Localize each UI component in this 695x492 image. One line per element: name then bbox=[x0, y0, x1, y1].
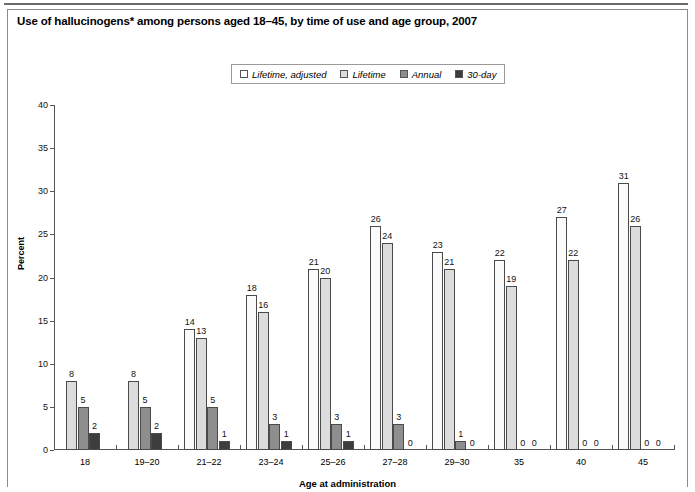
x-axis-tick-mark bbox=[426, 445, 427, 450]
bar bbox=[89, 433, 100, 450]
y-axis-tick-label: 40 bbox=[18, 100, 48, 110]
bar bbox=[258, 312, 269, 450]
x-axis-tick-mark bbox=[364, 445, 365, 450]
x-axis-tick-mark bbox=[116, 445, 117, 450]
bar bbox=[246, 295, 257, 450]
bar bbox=[320, 278, 331, 451]
bar-value-label: 3 bbox=[390, 412, 407, 422]
bar-value-label: 18 bbox=[243, 283, 260, 293]
bar-value-label: 0 bbox=[464, 438, 481, 448]
bar bbox=[370, 226, 381, 450]
x-axis-tick-label: 29–30 bbox=[426, 457, 488, 467]
x-axis-tick-mark bbox=[54, 445, 55, 450]
legend-item: Annual bbox=[400, 69, 442, 80]
bar bbox=[308, 269, 319, 450]
bar-value-label: 3 bbox=[328, 412, 345, 422]
legend-swatch-icon bbox=[455, 70, 463, 78]
bar-value-label: 5 bbox=[204, 395, 221, 405]
bar-value-label: 13 bbox=[193, 326, 210, 336]
legend-item: Lifetime, adjusted bbox=[240, 69, 326, 80]
y-axis-tick-label: 10 bbox=[18, 359, 48, 369]
x-axis-tick-mark bbox=[178, 445, 179, 450]
bar bbox=[494, 260, 505, 450]
x-axis-tick-mark bbox=[240, 445, 241, 450]
bar-group: 26243027–28 bbox=[364, 105, 426, 450]
page-top-rule bbox=[4, 3, 688, 5]
bar-value-label: 1 bbox=[340, 429, 357, 439]
page-title: Use of hallucinogens* among persons aged… bbox=[17, 15, 477, 27]
bar-value-label: 2 bbox=[86, 421, 103, 431]
bar-value-label: 2 bbox=[148, 421, 165, 431]
x-axis-tick-label: 25–26 bbox=[302, 457, 364, 467]
bar-group: 85218 bbox=[54, 105, 116, 450]
bar bbox=[630, 226, 641, 450]
bar bbox=[128, 381, 139, 450]
chart-page: Use of hallucinogens* among persons aged… bbox=[0, 0, 695, 492]
x-axis-tick-label: 27–28 bbox=[364, 457, 426, 467]
x-axis-label: Age at administration bbox=[0, 478, 695, 489]
x-axis-tick-label: 45 bbox=[612, 457, 674, 467]
bar-group: 22190035 bbox=[488, 105, 550, 450]
x-axis-tick-label: 19–20 bbox=[116, 457, 178, 467]
bar-value-label: 3 bbox=[266, 412, 283, 422]
bar-value-label: 8 bbox=[125, 369, 142, 379]
bar bbox=[568, 260, 579, 450]
y-axis-tick-label: 35 bbox=[18, 143, 48, 153]
x-axis-tick-mark bbox=[302, 445, 303, 450]
bar-value-label: 0 bbox=[526, 438, 543, 448]
bar bbox=[432, 252, 443, 450]
x-axis-tick-label: 40 bbox=[550, 457, 612, 467]
bar-value-label: 1 bbox=[216, 429, 233, 439]
legend-item-label: Lifetime bbox=[352, 69, 385, 80]
x-axis-tick-label: 21–22 bbox=[178, 457, 240, 467]
bar-group: 85219–20 bbox=[116, 105, 178, 450]
bar-value-label: 16 bbox=[255, 300, 272, 310]
legend-swatch-icon bbox=[240, 70, 248, 78]
bar-value-label: 26 bbox=[627, 214, 644, 224]
legend-swatch-icon bbox=[340, 70, 348, 78]
bar-group: 18163123–24 bbox=[240, 105, 302, 450]
bar bbox=[66, 381, 77, 450]
bar-value-label: 0 bbox=[650, 438, 667, 448]
legend-swatch-icon bbox=[400, 70, 408, 78]
y-axis-tick-label: 5 bbox=[18, 402, 48, 412]
plot-area: 0510152025303540 8521885219–2014135121–2… bbox=[54, 105, 674, 450]
x-axis-tick-label: 23–24 bbox=[240, 457, 302, 467]
y-axis-tick-label: 30 bbox=[18, 186, 48, 196]
y-axis-tick-label: 25 bbox=[18, 229, 48, 239]
bar-value-label: 5 bbox=[137, 395, 154, 405]
x-axis-tick-label: 18 bbox=[54, 457, 116, 467]
bar bbox=[343, 441, 354, 450]
bar-value-label: 22 bbox=[565, 248, 582, 258]
x-axis-tick-mark bbox=[550, 445, 551, 450]
legend-item-label: Lifetime, adjusted bbox=[252, 69, 326, 80]
y-axis-tick-mark bbox=[50, 450, 54, 451]
bar-value-label: 27 bbox=[553, 205, 570, 215]
y-axis-label: Percent bbox=[16, 237, 26, 270]
bar-value-label: 31 bbox=[615, 171, 632, 181]
legend-item: Lifetime bbox=[340, 69, 385, 80]
bar bbox=[281, 441, 292, 450]
bar-value-label: 5 bbox=[75, 395, 92, 405]
bar-value-label: 21 bbox=[441, 257, 458, 267]
bar-group: 31260045 bbox=[612, 105, 674, 450]
bar-value-label: 0 bbox=[402, 438, 419, 448]
bar-group: 23211029–30 bbox=[426, 105, 488, 450]
legend-item-label: Annual bbox=[412, 69, 442, 80]
x-axis-tick-mark bbox=[612, 445, 613, 450]
bar bbox=[219, 441, 230, 450]
bar bbox=[506, 286, 517, 450]
bar-value-label: 20 bbox=[317, 266, 334, 276]
bar-value-label: 24 bbox=[379, 231, 396, 241]
bar-group: 27220040 bbox=[550, 105, 612, 450]
legend-item: 30-day bbox=[455, 69, 496, 80]
x-axis-tick-label: 35 bbox=[488, 457, 550, 467]
bar bbox=[184, 329, 195, 450]
bar-value-label: 19 bbox=[503, 274, 520, 284]
y-axis-tick-label: 15 bbox=[18, 316, 48, 326]
bar-value-label: 8 bbox=[63, 369, 80, 379]
chart-legend: Lifetime, adjustedLifetimeAnnual30-day bbox=[231, 64, 505, 84]
bar-value-label: 0 bbox=[588, 438, 605, 448]
bar-value-label: 26 bbox=[367, 214, 384, 224]
legend-item-label: 30-day bbox=[467, 69, 496, 80]
